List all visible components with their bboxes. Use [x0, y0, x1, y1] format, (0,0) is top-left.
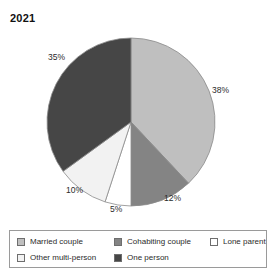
pie-svg — [0, 18, 278, 223]
legend-swatch-icon — [114, 238, 122, 246]
pie-chart-figure: 2021 38% 12% 5% 10% 35% Married couple C… — [0, 0, 278, 278]
legend-item-lone-parent[interactable]: Lone parent — [210, 234, 266, 249]
slice-label-one-person: 35% — [48, 53, 65, 62]
legend-swatch-icon — [17, 238, 25, 246]
legend-swatch-icon — [210, 238, 218, 246]
slice-label-other-multi-person: 10% — [66, 186, 83, 195]
legend-label: Cohabiting couple — [127, 238, 191, 246]
legend-row: Other multi-person One person — [10, 250, 266, 267]
slice-label-married-couple: 38% — [212, 86, 229, 95]
legend-item-cohabiting-couple[interactable]: Cohabiting couple — [114, 234, 191, 249]
pie-slice-group — [47, 38, 215, 206]
legend-label: One person — [127, 254, 169, 262]
legend-swatch-icon — [114, 254, 122, 262]
legend-row: Married couple Cohabiting couple Lone pa… — [10, 234, 266, 251]
legend-item-married-couple[interactable]: Married couple — [17, 234, 83, 249]
legend-label: Married couple — [30, 238, 83, 246]
legend-label: Lone parent — [223, 238, 266, 246]
legend-item-one-person[interactable]: One person — [114, 250, 169, 265]
chart-legend: Married couple Cohabiting couple Lone pa… — [9, 230, 267, 268]
legend-label: Other multi-person — [30, 254, 96, 262]
legend-swatch-icon — [17, 254, 25, 262]
legend-item-other-multi-person[interactable]: Other multi-person — [17, 250, 96, 265]
pie-plot-area: 38% 12% 5% 10% 35% — [0, 18, 278, 223]
slice-label-cohabiting-couple: 12% — [164, 194, 181, 203]
slice-label-lone-parent: 5% — [110, 205, 122, 214]
